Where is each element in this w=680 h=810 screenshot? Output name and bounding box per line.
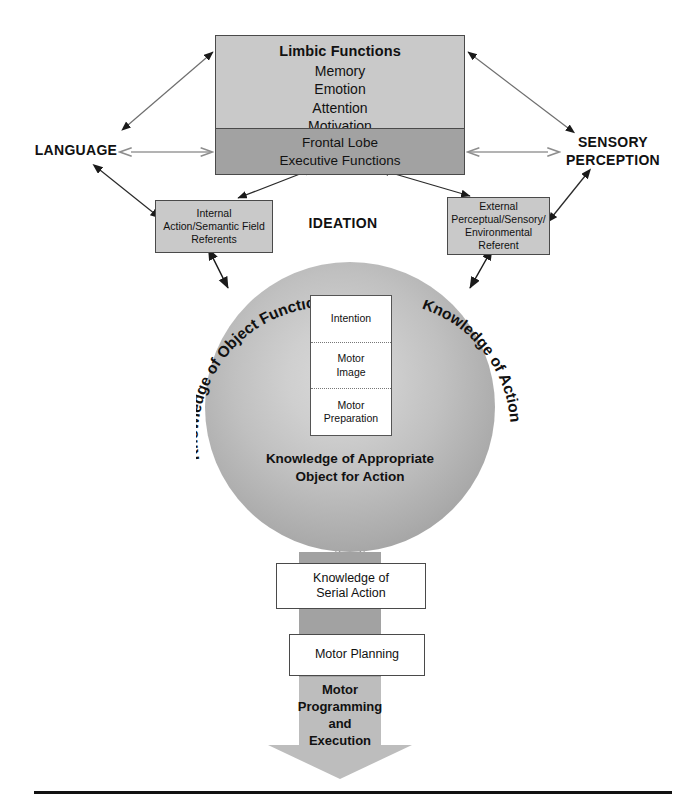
- arrow-frontal-to-external: [388, 172, 470, 196]
- external-referent-line-3: Environmental: [465, 226, 532, 239]
- label-motor-programming-execution: Motor Programming and Execution: [282, 682, 398, 750]
- limbic-title: Limbic Functions: [279, 43, 401, 59]
- box-external-referent: External Perceptual/Sensory/ Environment…: [447, 197, 550, 255]
- arrow-external-to-sphere: [470, 258, 487, 288]
- arrow-sensory-to-limbic: [468, 52, 568, 128]
- internal-referent-line-3: Referents: [191, 233, 237, 246]
- arrow-language-internal: [100, 170, 160, 218]
- label-sensory-line-2: PERCEPTION: [552, 152, 674, 170]
- execution-line-1: Motor: [282, 682, 398, 699]
- frontal-lobe-line-2: Executive Functions: [280, 152, 401, 170]
- box-internal-referents: Internal Action/Semantic Field Referents: [155, 200, 273, 253]
- arrow-frontal-to-internal: [238, 172, 305, 198]
- internal-referent-line-1: Internal: [196, 207, 231, 220]
- execution-line-4: Execution: [282, 733, 398, 750]
- label-knowledge-of-object-function: Knowledge of Object Function: [196, 300, 316, 473]
- arrow-sensory-external: [548, 176, 585, 222]
- box-knowledge-serial-action: Knowledge of Serial Action: [276, 563, 426, 609]
- execution-line-3: and: [282, 716, 398, 733]
- label-ideation: IDEATION: [288, 215, 398, 231]
- frontal-lobe-line-1: Frontal Lobe: [302, 134, 378, 152]
- limbic-item-memory: Memory: [315, 62, 366, 80]
- label-knowledge-appropriate-object: Knowledge of Appropriate Object for Acti…: [230, 450, 470, 485]
- arrow-head-down: [268, 745, 412, 779]
- arrow-language-to-limbic: [128, 52, 213, 125]
- limbic-item-attention: Attention: [312, 99, 367, 117]
- cell-intention: Intention: [311, 296, 391, 343]
- arrow-internal-to-sphere: [213, 258, 228, 288]
- arc-right-svg: Knowledge of Action: [412, 300, 522, 470]
- arc-left-svg: Knowledge of Object Function: [196, 300, 316, 470]
- limbic-functions-block: Limbic Functions Memory Emotion Attentio…: [215, 35, 465, 175]
- limbic-upper-section: Limbic Functions Memory Emotion Attentio…: [216, 36, 464, 130]
- box-motor-planning: Motor Planning: [289, 634, 425, 676]
- cell-motor-preparation-line-2: Preparation: [324, 412, 378, 425]
- limbic-item-emotion: Emotion: [314, 80, 365, 98]
- cell-motor-image: Motor Image: [311, 343, 391, 390]
- label-knowledge-of-action: Knowledge of Action: [412, 300, 522, 473]
- cell-motor-image-line-2: Image: [336, 366, 365, 379]
- serial-action-line-2: Serial Action: [316, 586, 385, 601]
- internal-referent-line-2: Action/Semantic Field: [163, 220, 265, 233]
- cell-intention-line-1: Intention: [331, 312, 371, 325]
- execution-line-2: Programming: [282, 699, 398, 716]
- motor-planning-label: Motor Planning: [315, 647, 399, 662]
- intention-motor-stack: Intention Motor Image Motor Preparation: [310, 295, 392, 436]
- knowledge-appropriate-line-1: Knowledge of Appropriate: [230, 450, 470, 468]
- label-language: LANGUAGE: [16, 142, 136, 160]
- label-sensory-line-1: SENSORY: [552, 134, 674, 152]
- knowledge-appropriate-line-2: Object for Action: [230, 468, 470, 486]
- external-referent-line-1: External: [479, 200, 518, 213]
- svg-text:Knowledge of Object Function: Knowledge of Object Function: [196, 300, 316, 461]
- external-referent-line-2: Perceptual/Sensory/: [451, 213, 546, 226]
- diagram-canvas: Limbic Functions Memory Emotion Attentio…: [0, 0, 680, 810]
- cell-motor-preparation-line-1: Motor: [338, 399, 365, 412]
- external-referent-line-4: Referent: [478, 239, 518, 252]
- label-sensory-perception: SENSORY PERCEPTION: [552, 134, 674, 169]
- frontal-lobe-section: Frontal Lobe Executive Functions: [216, 128, 464, 174]
- caption-divider-rule: [34, 791, 672, 794]
- svg-text:Knowledge of Action: Knowledge of Action: [421, 300, 522, 423]
- serial-action-line-1: Knowledge of: [313, 571, 389, 586]
- cell-motor-image-line-1: Motor: [338, 352, 365, 365]
- cell-motor-preparation: Motor Preparation: [311, 389, 391, 435]
